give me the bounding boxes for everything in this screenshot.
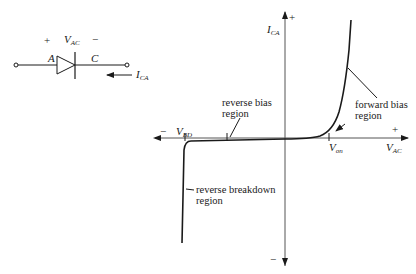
vbd-symbol: V — [176, 125, 183, 137]
reverse-breakdown-annotation: reverse breakdown region — [196, 184, 276, 206]
circuit-plus-sign: + — [44, 35, 50, 46]
terminal-cathode-icon — [125, 63, 129, 67]
forward-bias-annotation: forward bias region — [355, 99, 408, 121]
reverse-bias-line2: region — [222, 108, 272, 119]
reverse-breakdown-leader — [186, 189, 194, 190]
reverse-bias-leader — [230, 118, 240, 137]
diode-triangle-icon — [57, 56, 75, 74]
forward-bias-leader — [348, 68, 377, 98]
y-axis-plus: + — [289, 12, 295, 23]
forward-bias-arrow — [336, 124, 345, 131]
anode-label: A — [48, 53, 55, 64]
y-axis-minus: − — [270, 254, 276, 265]
x-axis-symbol: V — [386, 141, 393, 153]
circuit-voltage-symbol: V — [64, 33, 71, 45]
y-axis-subscript: CA — [271, 29, 280, 37]
y-axis-down-arrow-icon — [282, 258, 288, 266]
circuit-current-label: ICA — [136, 69, 149, 84]
x-axis-label: VAC — [386, 142, 402, 157]
x-axis-subscript: AC — [393, 147, 402, 155]
circuit-minus-sign: − — [92, 34, 98, 45]
reverse-bias-line1: reverse bias — [222, 97, 272, 108]
diode-circuit — [14, 52, 132, 79]
y-axis-label: ICA — [267, 24, 280, 39]
diode-diagram-canvas — [0, 0, 416, 274]
vbd-label: VBD — [176, 126, 192, 141]
reverse-breakdown-line2: region — [196, 195, 276, 206]
circuit-current-subscript: CA — [140, 74, 149, 82]
von-symbol: V — [329, 141, 336, 153]
cathode-label: C — [91, 53, 98, 64]
reverse-breakdown-line1: reverse breakdown — [196, 184, 276, 195]
x-axis-plus: + — [392, 124, 398, 135]
iv-curve — [182, 20, 351, 243]
circuit-voltage-label: VAC — [64, 34, 80, 49]
vbd-subscript: BD — [183, 131, 192, 139]
terminal-anode-icon — [14, 63, 18, 67]
forward-bias-line2: region — [355, 110, 408, 121]
von-label: Von — [329, 142, 343, 157]
reverse-bias-annotation: reverse bias region — [222, 97, 272, 119]
forward-bias-line1: forward bias — [355, 99, 408, 110]
von-subscript: on — [336, 147, 343, 155]
x-axis-minus: − — [160, 126, 166, 137]
circuit-voltage-subscript: AC — [71, 39, 80, 47]
